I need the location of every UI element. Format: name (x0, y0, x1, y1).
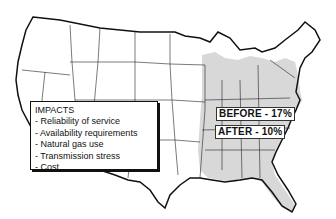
legend-item: - Availability requirements (35, 128, 157, 139)
map-figure: IMPACTS - Reliability of service - Avail… (0, 0, 336, 219)
legend-title: IMPACTS (35, 105, 157, 116)
legend-item: - Reliability of service (35, 116, 157, 127)
legend-item: - Natural gas use (35, 139, 157, 150)
impacts-legend: IMPACTS - Reliability of service - Avail… (30, 101, 158, 170)
before-label: BEFORE - 17% (216, 107, 295, 121)
after-label: AFTER - 10% (215, 125, 285, 139)
legend-item: - Cost (35, 162, 157, 173)
legend-item: - Transmission stress (35, 151, 157, 162)
